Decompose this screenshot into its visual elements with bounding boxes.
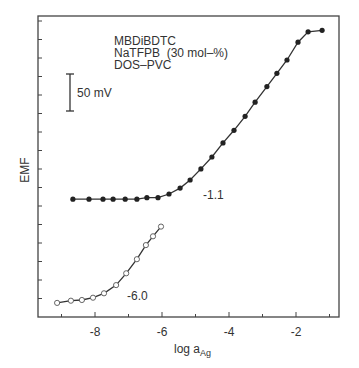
data-point	[264, 84, 269, 89]
legend-text: MBDiBDTC NaTFPB (30 mol–%) DOS–PVC	[114, 34, 228, 72]
data-point	[306, 29, 311, 34]
x-axis-label-main: log a	[174, 342, 200, 356]
data-point	[198, 166, 203, 171]
data-point	[114, 283, 119, 288]
data-point	[155, 195, 160, 200]
x-tick-label: -4	[224, 325, 235, 339]
data-point	[150, 234, 155, 239]
data-point	[86, 197, 91, 202]
data-point	[123, 197, 128, 202]
data-point	[90, 295, 95, 300]
data-point	[231, 128, 236, 133]
x-axis-label: log aAg	[174, 342, 211, 358]
y-axis-label: EMF	[18, 157, 32, 182]
data-point	[274, 71, 279, 76]
data-point	[70, 197, 75, 202]
data-point	[188, 177, 193, 182]
data-point	[284, 57, 289, 62]
x-axis-label-subscript: Ag	[200, 348, 211, 358]
plot-frame	[38, 16, 339, 317]
data-point	[100, 197, 105, 202]
x-tick-labels: -8-6-4-2	[90, 325, 302, 339]
data-point	[134, 257, 139, 262]
data-point	[320, 28, 325, 33]
data-curves	[55, 28, 325, 306]
data-point	[158, 224, 163, 229]
axis-ticks	[38, 21, 330, 317]
emf-chart: 50 mV MBDiBDTC NaTFPB (30 mol–%) DOS–PVC…	[0, 0, 359, 368]
data-point	[220, 140, 225, 145]
data-point	[68, 298, 73, 303]
data-point	[253, 100, 258, 105]
data-point	[111, 197, 116, 202]
data-point	[166, 191, 171, 196]
series-label-upper: -1.1	[203, 188, 224, 202]
scale-bar-label: 50 mV	[77, 86, 112, 100]
data-point	[144, 195, 149, 200]
data-point	[134, 197, 139, 202]
x-tick-label: -2	[291, 325, 302, 339]
data-point	[295, 40, 300, 45]
data-point	[101, 291, 106, 296]
data-point	[209, 154, 214, 159]
series-label-lower: -6.0	[127, 289, 148, 303]
scale-bar: 50 mV	[66, 74, 112, 111]
data-point	[55, 300, 60, 305]
x-tick-label: -6	[157, 325, 168, 339]
data-point	[79, 297, 84, 302]
data-point	[124, 271, 129, 276]
data-point	[243, 114, 248, 119]
legend-line-3: DOS–PVC	[114, 58, 172, 72]
data-point	[143, 243, 148, 248]
data-point	[178, 186, 183, 191]
x-tick-label: -8	[90, 325, 101, 339]
